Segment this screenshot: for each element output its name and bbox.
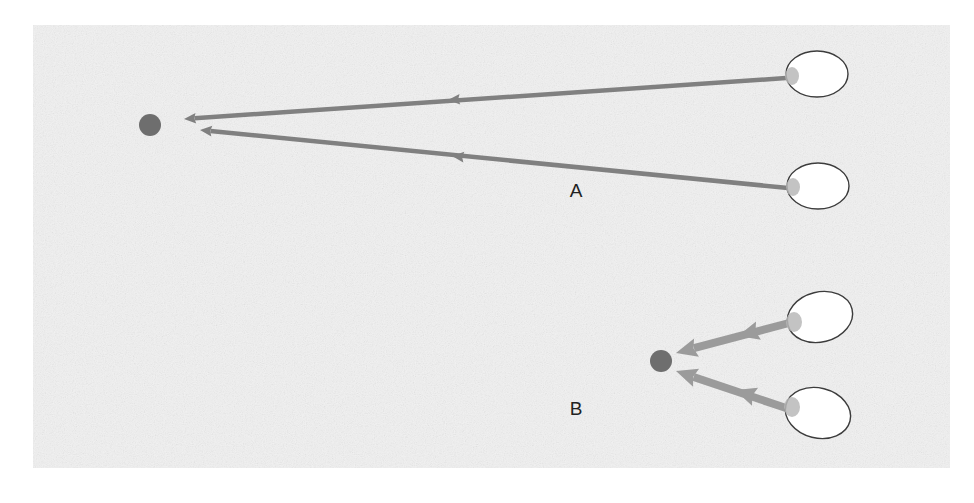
panel-label-a: A	[570, 180, 583, 201]
source-ellipse-b2-anchor-dot	[784, 397, 800, 417]
panel-label-b: B	[570, 398, 583, 419]
source-ellipse-a2-anchor-dot	[786, 178, 800, 196]
source-ellipse-b1-anchor-dot	[786, 312, 802, 332]
target-node-a[interactable]	[139, 114, 161, 136]
target-node-b[interactable]	[650, 350, 672, 372]
figure-root: AB	[0, 0, 974, 503]
source-ellipse-a1-anchor-dot	[785, 67, 799, 85]
diagram-canvas: AB	[0, 0, 974, 503]
